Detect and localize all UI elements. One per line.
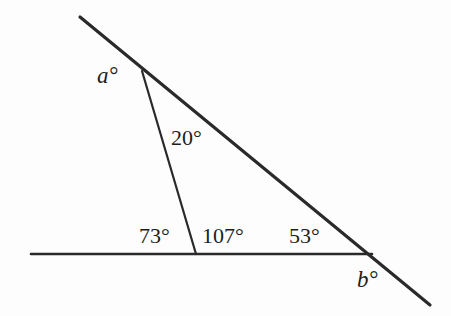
angle-label-20: 20° (171, 127, 202, 149)
angle-label-73: 73° (139, 225, 170, 247)
angle-label-a: a° (97, 64, 118, 87)
angle-label-53: 53° (289, 225, 320, 247)
angle-label-b: b° (357, 268, 378, 291)
transversal-line (80, 17, 430, 305)
diagram-canvas: a° 20° 73° 107° 53° b° (0, 0, 451, 316)
geometry-figure (0, 0, 451, 316)
angle-label-107: 107° (202, 225, 244, 247)
